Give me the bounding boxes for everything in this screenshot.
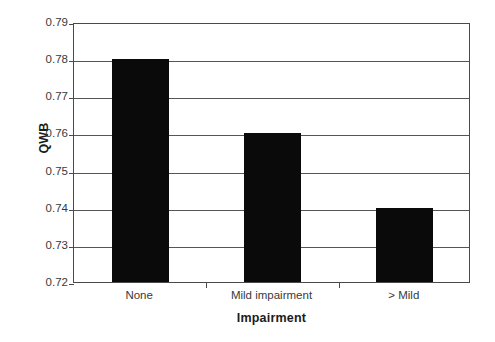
x-axis-tick-mark xyxy=(206,282,207,288)
x-axis-tick-label: > Mild xyxy=(388,290,419,302)
y-axis-tick-mark xyxy=(69,135,74,136)
plot-area xyxy=(73,23,470,283)
y-axis-tick-mark xyxy=(69,247,74,248)
y-axis-tick-mark xyxy=(69,173,74,174)
y-axis-tick-mark xyxy=(69,284,74,285)
x-axis-tick-label-group: NoneMild impairment> Mild xyxy=(73,290,470,310)
bar xyxy=(112,59,169,282)
y-axis-tick-label-group: 0.790.780.770.760.750.740.730.72 xyxy=(30,23,68,283)
y-axis-tick-label: 0.74 xyxy=(30,203,68,215)
y-axis-tick-label: 0.73 xyxy=(30,240,68,252)
y-axis-tick-label: 0.72 xyxy=(30,277,68,289)
y-axis-tick-mark xyxy=(69,98,74,99)
bar xyxy=(244,133,301,282)
x-axis-tick-mark xyxy=(339,282,340,288)
y-axis-tick-label: 0.78 xyxy=(30,54,68,66)
bar-chart-figure: QWB 0.790.780.770.760.750.740.730.72 Non… xyxy=(0,0,495,342)
y-axis-tick-mark xyxy=(69,24,74,25)
x-axis-tick-label: Mild impairment xyxy=(231,290,312,302)
bar xyxy=(376,208,433,282)
y-axis-tick-mark xyxy=(69,61,74,62)
y-axis-tick-label: 0.75 xyxy=(30,166,68,178)
y-axis-tick-label: 0.79 xyxy=(30,17,68,29)
y-axis-tick-mark xyxy=(69,210,74,211)
y-axis-tick-label: 0.77 xyxy=(30,92,68,104)
y-axis-tick-label: 0.76 xyxy=(30,129,68,141)
x-axis-title: Impairment xyxy=(73,311,470,325)
x-axis-tick-label: None xyxy=(125,290,153,302)
